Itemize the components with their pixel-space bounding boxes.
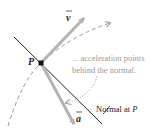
normal-label: Normal at P bbox=[96, 104, 138, 114]
annotation-line-1: ... acceleration points bbox=[72, 53, 144, 63]
annotation-line-2: behind the normal. bbox=[72, 65, 136, 75]
point-p-marker bbox=[39, 61, 44, 66]
point-label: P bbox=[28, 56, 35, 67]
velocity-label: v bbox=[66, 12, 71, 23]
motion-diagram: P v a ... acceleration points behind the… bbox=[0, 0, 165, 135]
annotation-arrow bbox=[66, 76, 97, 103]
acceleration-label: a bbox=[76, 113, 81, 124]
acceleration-vector bbox=[41, 63, 74, 124]
